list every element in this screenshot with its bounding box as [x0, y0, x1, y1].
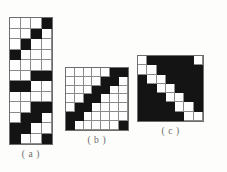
cell-a-r11-c3 — [42, 134, 53, 145]
cell-b-r0-c5 — [110, 68, 119, 77]
cell-b-r6-c3 — [92, 121, 101, 130]
cell-b-r2-c2 — [84, 86, 93, 95]
cell-b-r4-c2 — [84, 103, 93, 112]
cell-b-r3-c4 — [101, 94, 110, 103]
cell-c-r1-c5 — [184, 65, 193, 74]
cell-a-r8-c2 — [31, 102, 42, 113]
cell-b-r2-c1 — [75, 86, 84, 95]
cell-a-r6-c2 — [31, 81, 42, 92]
cell-b-r1-c5 — [110, 77, 119, 86]
figure-a-grid — [9, 17, 53, 145]
cell-a-r3-c2 — [31, 50, 42, 61]
cell-c-r0-c5 — [184, 56, 193, 65]
cell-b-r5-c1 — [75, 112, 84, 121]
cell-c-r5-c6 — [194, 102, 203, 111]
cell-b-r1-c2 — [84, 77, 93, 86]
cell-a-r7-c1 — [21, 92, 32, 103]
cell-c-r2-c1 — [147, 75, 156, 84]
cell-b-r6-c1 — [75, 121, 84, 130]
cell-c-r5-c0 — [138, 102, 147, 111]
cell-a-r4-c0 — [10, 60, 21, 71]
figure-c-grid — [137, 55, 204, 122]
cell-b-r1-c3 — [92, 77, 101, 86]
cell-c-r3-c5 — [184, 84, 193, 93]
cell-c-r1-c1 — [147, 65, 156, 74]
cell-a-r8-c1 — [21, 102, 32, 113]
cell-c-r3-c0 — [138, 84, 147, 93]
cell-c-r0-c1 — [147, 56, 156, 65]
cell-c-r6-c3 — [166, 112, 175, 121]
figure-c-caption: ( c ) — [161, 127, 179, 137]
cell-b-r5-c2 — [84, 112, 93, 121]
cell-a-r9-c1 — [21, 113, 32, 124]
cell-b-r6-c0 — [66, 121, 75, 130]
cell-c-r3-c4 — [175, 84, 184, 93]
cell-c-r4-c0 — [138, 93, 147, 102]
cell-a-r10-c1 — [21, 123, 32, 134]
cell-b-r5-c4 — [101, 112, 110, 121]
cell-a-r7-c0 — [10, 92, 21, 103]
cell-c-r1-c2 — [157, 65, 166, 74]
cell-b-r6-c4 — [101, 121, 110, 130]
cell-a-r6-c1 — [21, 81, 32, 92]
cell-a-r5-c3 — [42, 71, 53, 82]
cell-c-r1-c3 — [166, 65, 175, 74]
cell-b-r5-c6 — [119, 112, 128, 121]
cell-b-r5-c0 — [66, 112, 75, 121]
cell-a-r7-c3 — [42, 92, 53, 103]
cell-c-r5-c5 — [184, 102, 193, 111]
cell-b-r0-c6 — [119, 68, 128, 77]
cell-a-r10-c3 — [42, 123, 53, 134]
cell-b-r2-c4 — [101, 86, 110, 95]
cell-b-r4-c4 — [101, 103, 110, 112]
cell-b-r0-c0 — [66, 68, 75, 77]
cell-c-r5-c2 — [157, 102, 166, 111]
cell-b-r2-c3 — [92, 86, 101, 95]
cell-a-r11-c1 — [21, 134, 32, 145]
cell-a-r7-c2 — [31, 92, 42, 103]
cell-b-r3-c1 — [75, 94, 84, 103]
cell-a-r6-c0 — [10, 81, 21, 92]
cell-c-r6-c1 — [147, 112, 156, 121]
cell-c-r6-c6 — [194, 112, 203, 121]
cell-b-r0-c1 — [75, 68, 84, 77]
cell-b-r4-c6 — [119, 103, 128, 112]
cell-a-r11-c2 — [31, 134, 42, 145]
cell-b-r2-c0 — [66, 86, 75, 95]
cell-b-r5-c5 — [110, 112, 119, 121]
cell-c-r4-c5 — [184, 93, 193, 102]
cell-c-r0-c6 — [194, 56, 203, 65]
cell-c-r3-c6 — [194, 84, 203, 93]
cell-b-r6-c6 — [119, 121, 128, 130]
cell-a-r1-c0 — [10, 29, 21, 40]
cell-c-r0-c0 — [138, 56, 147, 65]
cell-b-r6-c2 — [84, 121, 93, 130]
cell-a-r1-c2 — [31, 29, 42, 40]
cell-a-r0-c1 — [21, 18, 32, 29]
figure-b-grid — [65, 67, 129, 131]
cell-b-r2-c5 — [110, 86, 119, 95]
cell-b-r1-c1 — [75, 77, 84, 86]
cell-c-r5-c1 — [147, 102, 156, 111]
cell-a-r2-c1 — [21, 39, 32, 50]
cell-c-r4-c3 — [166, 93, 175, 102]
cell-b-r0-c2 — [84, 68, 93, 77]
cell-c-r4-c6 — [194, 93, 203, 102]
cell-a-r8-c0 — [10, 102, 21, 113]
cell-c-r3-c2 — [157, 84, 166, 93]
cell-c-r3-c3 — [166, 84, 175, 93]
cell-b-r4-c1 — [75, 103, 84, 112]
cell-a-r5-c2 — [31, 71, 42, 82]
cell-a-r2-c3 — [42, 39, 53, 50]
cell-a-r9-c0 — [10, 113, 21, 124]
figure-b-caption: ( b ) — [87, 136, 106, 146]
cell-c-r4-c1 — [147, 93, 156, 102]
cell-a-r4-c3 — [42, 60, 53, 71]
cell-a-r0-c0 — [10, 18, 21, 29]
figure-b: ( b ) — [65, 67, 129, 145]
cell-a-r10-c0 — [10, 123, 21, 134]
cell-b-r2-c6 — [119, 86, 128, 95]
cell-a-r1-c1 — [21, 29, 32, 40]
cell-c-r1-c6 — [194, 65, 203, 74]
cell-a-r4-c2 — [31, 60, 42, 71]
